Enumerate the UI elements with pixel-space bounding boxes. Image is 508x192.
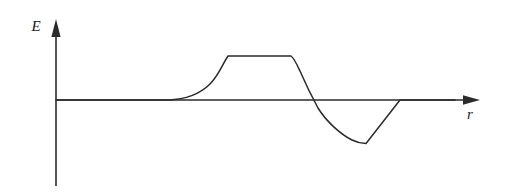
x-axis-arrowhead-icon (463, 95, 480, 105)
plot-svg: E r (0, 0, 508, 192)
x-axis-label: r (467, 106, 473, 122)
figure-container: E r (0, 0, 508, 192)
y-axis-arrowhead-icon (51, 19, 60, 37)
y-axis-label: E (30, 18, 40, 34)
